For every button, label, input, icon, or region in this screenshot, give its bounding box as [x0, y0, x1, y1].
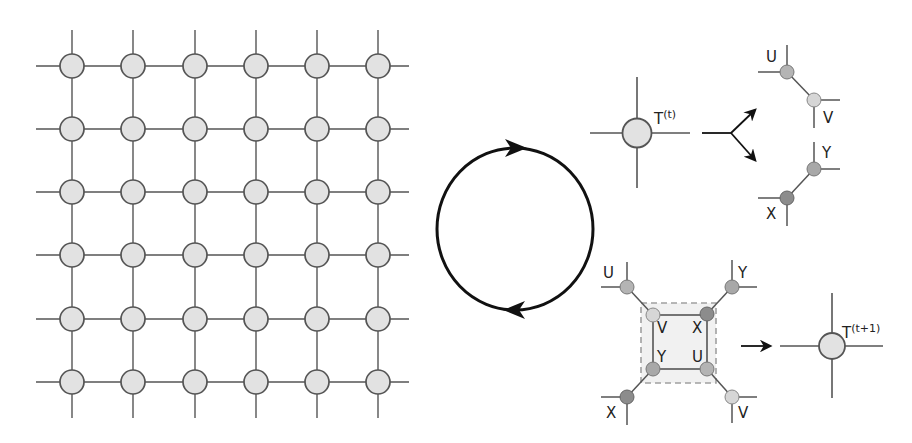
tensor-t-label: T(t) [653, 108, 676, 128]
plaquette-label-outer-X: X [606, 404, 616, 422]
lattice-tensor-node [366, 117, 390, 141]
iteration-cycle [437, 139, 593, 319]
tensor-network-diagram: T(t) U V Y X [0, 0, 912, 443]
tensor-t1-node-group: T(t+1) [780, 293, 883, 398]
lattice-tensor-node [60, 307, 84, 331]
plaquette-label-inner-U: U [692, 348, 703, 366]
lattice-tensor-node [305, 243, 329, 267]
lattice-tensor-node [183, 117, 207, 141]
tensor-t-node-group: T(t) [590, 77, 690, 188]
lattice-tensor-node [183, 180, 207, 204]
label-Y: Y [821, 144, 832, 162]
lattice-tensor-node [366, 370, 390, 394]
lattice-tensor-node [244, 54, 268, 78]
node-Y [807, 162, 821, 176]
lattice-tensor-node [183, 243, 207, 267]
plaquette-outer-X [620, 390, 634, 404]
lattice-tensor-node [366, 307, 390, 331]
plaquette-label-outer-Y: Y [737, 264, 748, 282]
square-lattice [36, 30, 409, 418]
plaquette-outer-U [620, 280, 634, 294]
lattice-tensor-node [366, 54, 390, 78]
label-V: V [823, 109, 834, 127]
plaquette-label-inner-X: X [692, 319, 702, 337]
lattice-tensor-node [60, 243, 84, 267]
lattice-tensor-node [305, 370, 329, 394]
lattice-tensor-node [244, 117, 268, 141]
lattice-tensor-node [60, 180, 84, 204]
plaquette-label-outer-V: V [738, 404, 749, 422]
label-X: X [766, 205, 776, 223]
lattice-tensor-node [121, 180, 145, 204]
decomposition-upper-pair: U V [758, 45, 840, 128]
split-arrow-icon [702, 110, 755, 160]
plaquette-label-inner-Y: Y [656, 348, 667, 366]
lattice-tensor-node [244, 370, 268, 394]
lattice-tensor-node [121, 307, 145, 331]
lattice-tensor-node [121, 117, 145, 141]
plaquette-label-outer-U: U [603, 264, 614, 282]
lattice-tensor-node [305, 307, 329, 331]
lattice-tensor-node [121, 243, 145, 267]
lattice-tensor-node [305, 117, 329, 141]
node-X [780, 191, 794, 205]
lattice-tensor-node [244, 243, 268, 267]
plaquette-contraction: U Y X V V X Y U [601, 260, 757, 425]
node-V [807, 93, 821, 107]
node-U [780, 65, 794, 79]
lattice-tensor-node [60, 370, 84, 394]
tensor-t-node [623, 119, 652, 148]
lattice-tensor-node [305, 180, 329, 204]
cycle-circle [437, 148, 593, 310]
plaquette-label-inner-V: V [657, 319, 668, 337]
lattice-tensor-node [183, 307, 207, 331]
lattice-tensor-node [183, 370, 207, 394]
lattice-tensor-node [244, 307, 268, 331]
label-U: U [766, 48, 777, 66]
lattice-tensor-node [305, 54, 329, 78]
lattice-tensor-node [60, 54, 84, 78]
lattice-tensor-node [121, 54, 145, 78]
decomposition-lower-pair: Y X [758, 142, 840, 226]
lattice-tensor-node [366, 180, 390, 204]
lattice-tensor-node [121, 370, 145, 394]
lattice-tensor-node [183, 54, 207, 78]
plaquette-outer-V [725, 390, 739, 404]
lattice-tensor-node [244, 180, 268, 204]
plaquette-outer-Y [725, 280, 739, 294]
tensor-t1-label: T(t+1) [841, 322, 880, 342]
lattice-tensor-node [60, 117, 84, 141]
lattice-tensor-node [366, 243, 390, 267]
